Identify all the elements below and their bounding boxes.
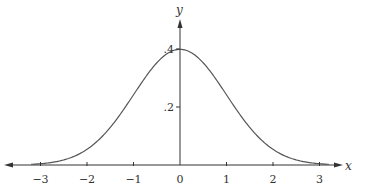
y-tick-label: .2 (164, 101, 175, 114)
x-tick-label: 3 (316, 173, 323, 186)
x-tick-label: −3 (32, 173, 48, 186)
x-axis-left-arrow-icon (4, 163, 13, 168)
x-tick-label: −2 (79, 173, 95, 186)
chart: −3−2−10123 .2.4 x y (0, 0, 365, 194)
x-tick-label: −1 (125, 173, 141, 186)
x-tick-label: 1 (223, 173, 230, 186)
y-ticks: .2.4 (164, 43, 181, 114)
x-axis-right-arrow-icon (334, 163, 343, 168)
x-tick-label: 0 (177, 173, 184, 186)
x-tick-label: 2 (270, 173, 277, 186)
y-axis-arrow-icon (178, 19, 183, 28)
y-axis-label: y (175, 3, 183, 17)
x-ticks: −3−2−10123 (32, 162, 323, 186)
axes (4, 19, 343, 168)
x-axis-label: x (345, 159, 352, 173)
y-tick-label: .4 (164, 43, 175, 56)
